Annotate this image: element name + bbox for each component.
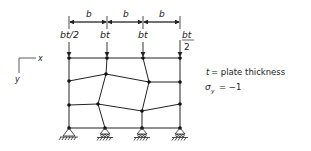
roller-supports-icon bbox=[97, 128, 188, 141]
legend-t-definition: = plate thickness bbox=[211, 67, 286, 77]
dim-label-1: b bbox=[86, 9, 92, 19]
dim-label-3: b bbox=[159, 9, 165, 19]
load-label-3: bt bbox=[138, 29, 149, 40]
load-label-1: bt/2 bbox=[60, 29, 79, 40]
y-axis-label: y bbox=[14, 75, 20, 84]
legend-sigma-sub: y bbox=[210, 87, 215, 95]
load-label-4-num: bt bbox=[182, 30, 192, 40]
mesh bbox=[69, 58, 180, 128]
pin-support-icon bbox=[59, 128, 78, 140]
load-label-2: bt bbox=[100, 29, 111, 40]
axes-icon bbox=[19, 58, 36, 73]
dim-label-2: b bbox=[123, 9, 129, 19]
load-label-4-den: 2 bbox=[184, 42, 190, 52]
legend-t-symbol: t bbox=[206, 67, 210, 77]
deformed-mesh-diagram: b b b bt/2 bt bt bt 2 bbox=[0, 0, 311, 151]
legend-sigma-value: = −1 bbox=[219, 82, 241, 92]
load-arrows bbox=[69, 40, 180, 56]
x-axis-label: x bbox=[37, 54, 43, 63]
mesh-nodes bbox=[67, 56, 182, 130]
